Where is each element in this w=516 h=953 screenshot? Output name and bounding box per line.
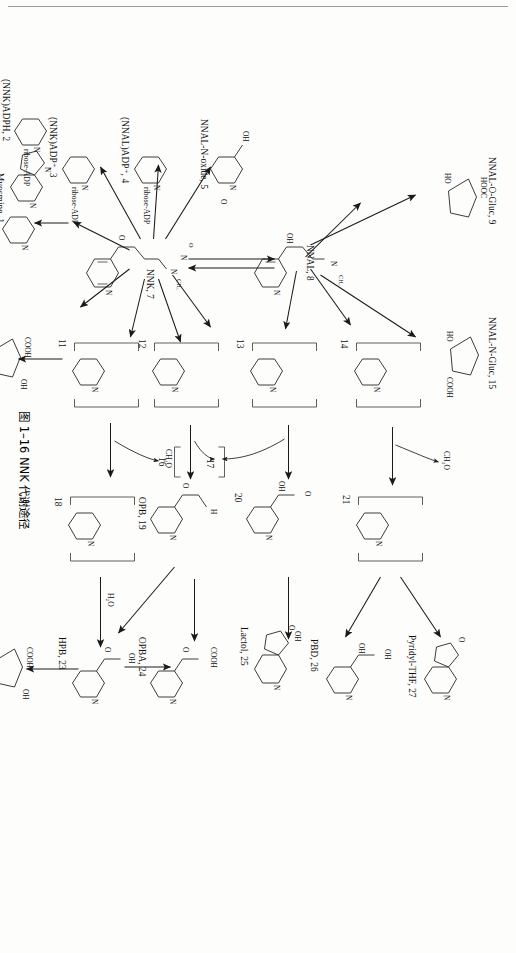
svg-text:COOH: COOH — [23, 337, 32, 359]
arrows-12-19 — [191, 425, 215, 479]
structure-nnal-n-oxide-5: NOOH — [211, 131, 250, 205]
svg-text:N: N — [374, 541, 383, 547]
arrow-14-to-21 — [393, 427, 439, 485]
structure-nnk-7: N O N N CH₃ O — [87, 235, 195, 296]
arrows-13-20-17 — [223, 425, 289, 479]
svg-text:N: N — [170, 387, 179, 393]
svg-text:N: N — [329, 261, 338, 267]
svg-text:OH: OH — [19, 379, 28, 390]
structure-bracket-18 — [71, 497, 135, 561]
svg-text:N: N — [169, 269, 178, 275]
svg-text:OH: OH — [21, 689, 30, 700]
svg-text:OH: OH — [277, 481, 286, 492]
svg-text:OH: OH — [241, 131, 250, 142]
structure-pyridyl-thf-27: NO — [425, 637, 466, 701]
compound-label-nnk-adp-3: (NNK)ADP⁺, 3 — [48, 117, 59, 177]
svg-text:N: N — [272, 685, 281, 691]
arrows-11-18-16 — [111, 423, 159, 477]
compound-label-myosmine-1: Myosmine, 1 — [0, 173, 5, 223]
structure-bracket-11 — [75, 343, 139, 407]
compound-label-pbd-26: PBD, 26 — [309, 639, 319, 672]
compound-label-hpb-23: HPB, 23 — [57, 637, 67, 670]
reagent-label-ch2o-b: CH₂O — [164, 449, 173, 468]
svg-text:N: N — [168, 699, 177, 705]
svg-text:O: O — [181, 647, 190, 653]
compound-label-13: 13 — [235, 339, 245, 348]
svg-text:HO: HO — [443, 173, 452, 184]
structure-ring-generic-c: N — [251, 359, 283, 393]
svg-text:N: N — [28, 203, 37, 209]
svg-text:N: N — [442, 695, 451, 701]
svg-text:CH₃: CH₃ — [338, 275, 345, 286]
compound-label-opb-19: OPB, 19 — [137, 497, 147, 530]
svg-text:COOH: COOH — [209, 647, 218, 669]
reagent-label-ch2o-a: CH₂O — [442, 451, 451, 470]
structure-20: NOHO — [247, 481, 312, 541]
svg-text:OH: OH — [357, 643, 366, 654]
figure-caption: 图 1–16 NNK 代谢途径 — [17, 411, 33, 529]
svg-text:COOH: COOH — [25, 647, 34, 669]
svg-text:N: N — [152, 185, 161, 191]
svg-text:N: N — [104, 290, 113, 296]
structure-ring-generic-b: N — [153, 359, 185, 393]
structure-bracket-13 — [253, 343, 317, 407]
svg-text:OH: OH — [127, 653, 136, 664]
svg-text:OH: OH — [383, 649, 392, 660]
structure-ring-generic-a: N — [73, 359, 105, 393]
reagent-label-h2o: H₂O — [106, 593, 115, 607]
structure-hpb-23: NOOH — [73, 647, 136, 705]
structure-bracket-12 — [155, 343, 219, 407]
svg-text:O: O — [188, 243, 195, 248]
svg-text:COOH: COOH — [445, 377, 454, 399]
structure-nnk-n-oxide-6: N — [3, 217, 35, 251]
svg-text:N: N — [32, 147, 41, 153]
structure-bracket-17 — [175, 447, 225, 477]
svg-text:N: N — [264, 535, 273, 541]
svg-text:N: N — [268, 387, 277, 393]
svg-text:N: N — [90, 699, 99, 705]
compound-label-11: 11 — [57, 339, 67, 348]
svg-text:O: O — [117, 235, 126, 241]
svg-text:N: N — [228, 185, 237, 191]
compound-label-pyridyl-thf-27: Pyridyl-THF, 27 — [407, 635, 417, 698]
svg-text:O: O — [457, 637, 466, 643]
compound-label-20: 20 — [233, 493, 243, 502]
compound-label-opba-24: OPBA, 24 — [137, 637, 147, 677]
structure-nnal-adp-4: N — [135, 157, 167, 191]
pathway-vector-layer: N O N N CH₃ O N OH — [6, 7, 511, 947]
svg-text:O: O — [103, 647, 112, 653]
structure-myosmine-1: NN — [11, 151, 52, 209]
arrow-19-to-23 — [119, 567, 175, 633]
svg-text:N: N — [90, 387, 99, 393]
compound-label-14: 14 — [339, 339, 349, 348]
compound-label-nnal-8: NNAL, 8 — [305, 245, 315, 281]
svg-text:HO: HO — [445, 331, 454, 342]
substituent-label-ribose-adp-3: ribose-ADP — [22, 149, 31, 186]
compound-label-12: 12 — [137, 339, 147, 348]
svg-text:OH: OH — [293, 631, 302, 642]
structure-bracket-14 — [357, 343, 421, 407]
structure-bracket-21 — [359, 497, 423, 561]
svg-text:N: N — [272, 290, 281, 296]
svg-text:O: O — [287, 625, 296, 631]
structure-nnk-gluc-10: COOHOHHO — [0, 333, 32, 390]
compound-label-18: 18 — [53, 497, 63, 506]
svg-text:O: O — [219, 199, 228, 205]
compound-label-nnal-o-gluc-9: NNAL-O-Gluc, 9 — [487, 157, 497, 225]
substituent-label-ribose-adp-1: ribose-ADP — [142, 187, 151, 224]
compound-label-nnal-n-oxide-5: NNAL-N-oxide, 5 — [199, 119, 209, 189]
structure-nnk-adp-3: N — [63, 157, 95, 191]
structure-nnal-8: N OH N CH₃ — [255, 233, 345, 296]
structure-hpb-gluc-22: COOHOHHO — [0, 643, 34, 700]
structure-ring-generic-d: N — [355, 359, 387, 393]
svg-text:N: N — [168, 535, 177, 541]
structure-lactol-25: NOOH — [255, 625, 302, 691]
compound-label-nnal-adp-4: (NNAL)ADP⁺, 4 — [120, 117, 131, 183]
structure-ring-21: N — [357, 513, 389, 547]
svg-text:N: N — [20, 245, 29, 251]
structure-opba-24: NOCOOH — [151, 647, 218, 705]
scanned-page: N O N N CH₃ O N OH — [0, 0, 516, 953]
compound-label-nnal-n-gluc-15: NNAL-N-Gluc, 15 — [487, 317, 497, 389]
figure-canvas: N O N N CH₃ O N OH — [6, 7, 511, 947]
svg-text:O: O — [181, 483, 190, 489]
